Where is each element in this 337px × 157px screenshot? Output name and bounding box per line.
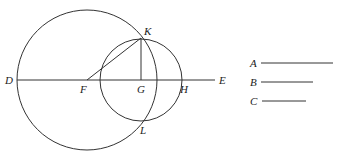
label-A: A [249,57,257,69]
segment-FK [87,38,141,80]
label-B: B [250,76,257,88]
label-E: E [218,74,226,86]
label-D: D [4,74,13,86]
label-C: C [250,95,258,107]
label-G: G [137,83,145,95]
label-F: F [79,83,87,95]
label-L: L [139,124,146,136]
geometry-diagram: D E F G H K L A B C [0,0,337,157]
label-H: H [179,83,189,95]
label-K: K [143,25,152,37]
